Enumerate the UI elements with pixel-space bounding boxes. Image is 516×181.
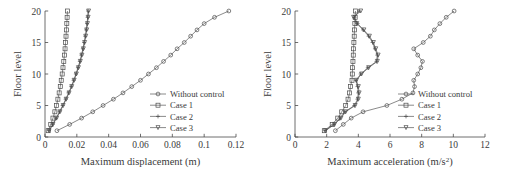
x-tick-label: 12 <box>480 140 490 150</box>
x-tick-label: 2 <box>324 140 329 150</box>
axes: 02468101205101520 <box>282 7 491 151</box>
data-point-circle <box>55 129 59 133</box>
x-tick-label: 0 <box>43 140 48 150</box>
legend: Without controlCase 1Case 2Case 3 <box>150 89 225 133</box>
y-tick-label: 15 <box>32 38 42 48</box>
legend: Without controlCase 1Case 2Case 3 <box>398 89 473 133</box>
y-axis-title: Floor level <box>12 51 23 97</box>
x-tick-label: 0.08 <box>164 140 181 150</box>
legend-label: Case 2 <box>418 112 441 122</box>
series-without-control <box>55 9 231 133</box>
x-tick-label: 0 <box>293 140 298 150</box>
legend-label: Without control <box>170 89 225 99</box>
x-tick-label: 0.06 <box>132 140 149 150</box>
y-tick-label: 10 <box>282 70 292 80</box>
figure-container: 00.020.040.060.080.10.1205101520Maximum … <box>0 0 516 181</box>
y-tick-label: 20 <box>282 7 292 17</box>
y-axis-title: Floor level <box>262 51 273 97</box>
x-tick-label: 10 <box>449 140 459 150</box>
series-line <box>49 11 88 131</box>
acceleration-plot: 02468101205101520Maximum acceleration (m… <box>258 0 516 181</box>
legend-label: Case 3 <box>418 123 441 133</box>
data-point-plus <box>404 114 408 118</box>
data-point-circle <box>333 129 337 133</box>
y-tick-label: 20 <box>32 7 42 17</box>
x-tick-label: 8 <box>419 140 424 150</box>
series-case-3 <box>323 9 380 133</box>
legend-label: Case 1 <box>418 100 441 110</box>
x-tick-label: 0.12 <box>228 140 245 150</box>
series-case-1 <box>46 9 69 133</box>
x-tick-label: 4 <box>356 140 361 150</box>
series-case-1 <box>322 9 357 133</box>
legend-label: Case 1 <box>170 100 193 110</box>
x-tick-label: 6 <box>388 140 393 150</box>
x-tick-label: 0.04 <box>100 140 117 150</box>
y-tick-label: 5 <box>286 101 291 111</box>
y-tick-label: 5 <box>36 101 41 111</box>
x-tick-label: 0.1 <box>198 140 210 150</box>
chart-panel-acceleration: 02468101205101520Maximum acceleration (m… <box>258 0 516 181</box>
legend-label: Without control <box>418 89 473 99</box>
x-axis-title: Maximum displacement (m) <box>81 156 201 168</box>
series-line <box>57 11 229 131</box>
series-line <box>325 11 378 131</box>
y-tick-label: 0 <box>36 133 41 143</box>
series-line <box>325 11 377 131</box>
x-axis-title: Maximum acceleration (m/s2) <box>327 156 453 168</box>
y-tick-label: 15 <box>282 38 292 48</box>
legend-label: Case 3 <box>170 123 193 133</box>
series-case-2 <box>323 9 379 133</box>
y-tick-label: 10 <box>32 70 42 80</box>
y-tick-label: 0 <box>286 133 291 143</box>
data-point-plus <box>156 114 160 118</box>
chart-panel-displacement: 00.020.040.060.080.10.1205101520Maximum … <box>0 0 258 181</box>
x-tick-label: 0.02 <box>69 140 86 150</box>
displacement-plot: 00.020.040.060.080.10.1205101520Maximum … <box>0 0 258 181</box>
legend-label: Case 2 <box>170 112 193 122</box>
